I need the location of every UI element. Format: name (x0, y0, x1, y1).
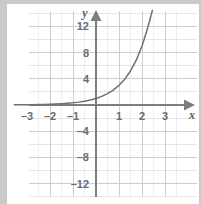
y-tick-label: –8 (77, 151, 89, 163)
y-tick-label: –4 (77, 125, 90, 137)
x-tick-label: 2 (139, 110, 145, 122)
y-tick-label: 8 (83, 47, 89, 59)
x-axis-label: x (188, 108, 195, 122)
x-tick-label: 3 (162, 110, 168, 122)
coordinate-plane-card: –3–2–1123 1284–4–8–12 y x (7, 4, 199, 204)
x-tick-label: –2 (44, 110, 56, 122)
figure-root: –3–2–1123 1284–4–8–12 y x (0, 0, 201, 204)
y-tick-label: –12 (71, 178, 89, 190)
y-axis-label: y (80, 6, 88, 20)
x-tick-label: 1 (116, 110, 122, 122)
coordinate-plane-svg: –3–2–1123 1284–4–8–12 y x (7, 4, 199, 204)
x-tick-label: –1 (67, 110, 79, 122)
y-tick-label: 4 (83, 73, 90, 85)
x-tick-label: –3 (21, 110, 33, 122)
y-tick-label: 12 (77, 20, 89, 32)
